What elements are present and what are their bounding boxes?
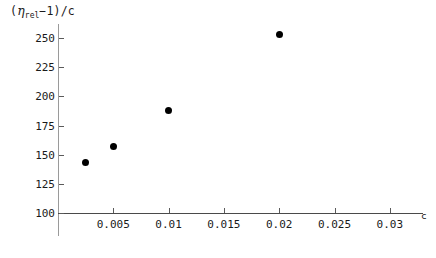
y-axis-label-close: ): [54, 4, 61, 18]
data-point: [165, 107, 172, 114]
x-axis-tick-label: 0.02: [266, 218, 293, 231]
y-axis-tick-label: 125: [35, 177, 55, 190]
y-axis-tick-label: 200: [35, 90, 55, 103]
x-axis-tick: [390, 208, 391, 213]
x-axis-tick-label: 0.01: [155, 218, 182, 231]
x-axis-tick: [169, 208, 170, 213]
minus-one: −1: [39, 4, 53, 18]
x-axis-tick-label: 0.025: [318, 218, 351, 231]
y-axis-tick-label: 250: [35, 32, 55, 45]
y-axis-label: (ηrel−1)/c: [10, 3, 75, 20]
y-axis-tick: [59, 184, 64, 185]
x-axis-tick: [335, 208, 336, 213]
y-axis-tick-label: 175: [35, 119, 55, 132]
y-axis-tick-label: 150: [35, 148, 55, 161]
x-axis-tick-label: 0.005: [97, 218, 130, 231]
y-axis-tick-label: 225: [35, 61, 55, 74]
data-point: [82, 159, 89, 166]
x-axis-tick: [279, 208, 280, 213]
x-axis-tick-label: 0.03: [377, 218, 404, 231]
eta-symbol: η: [17, 3, 25, 18]
y-axis-tick: [59, 67, 64, 68]
y-axis-tick: [59, 155, 64, 156]
data-point: [110, 143, 117, 150]
y-axis-tick-label: 100: [35, 207, 55, 220]
data-point: [276, 31, 283, 38]
scatter-plot: (ηrel−1)/c 100125150175200225250 0.0050.…: [0, 0, 436, 258]
x-axis-label: c: [421, 210, 427, 221]
x-axis-tick-label: 0.015: [207, 218, 240, 231]
y-axis-line: [58, 24, 59, 236]
y-axis-label-divider: /c: [61, 4, 75, 18]
y-axis-tick: [59, 213, 64, 214]
eta-subscript: rel: [25, 11, 39, 20]
x-axis-tick: [224, 208, 225, 213]
x-axis-line: [58, 213, 423, 214]
y-axis-tick: [59, 96, 64, 97]
y-axis-tick: [59, 126, 64, 127]
y-axis-tick: [59, 38, 64, 39]
x-axis-tick: [113, 208, 114, 213]
